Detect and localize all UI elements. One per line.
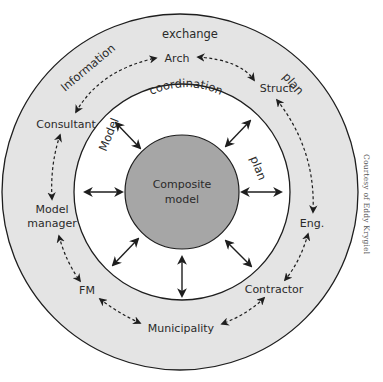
stakeholder-struct: Struct.	[260, 82, 297, 95]
bim-collaboration-diagram: Composite model coordination Model plan …	[0, 0, 383, 382]
composite-model-core	[125, 135, 239, 249]
stakeholder-arch: Arch	[165, 52, 190, 65]
exchange-label: exchange	[162, 27, 218, 41]
core-label-line2: model	[165, 193, 199, 206]
stakeholder-fm: FM	[79, 284, 95, 297]
stakeholder-municipality: Municipality	[148, 322, 215, 335]
stakeholder-model-manager-line1: Model	[35, 203, 68, 216]
image-credit: Courtesy of Eddy Krygiel	[362, 154, 371, 255]
stakeholder-eng: Eng.	[300, 217, 324, 230]
core-label-line1: Composite	[153, 178, 212, 191]
stakeholder-contractor: Contractor	[245, 283, 304, 296]
stakeholder-model-manager-line2: manager	[27, 217, 77, 230]
stakeholder-consultant: Consultant	[36, 118, 96, 131]
